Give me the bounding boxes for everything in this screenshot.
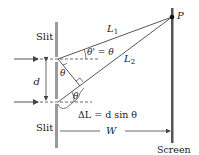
- slit-barrier: [55, 22, 58, 148]
- right-angle-mark: [76, 78, 83, 82]
- L1-label: L1: [106, 23, 118, 36]
- screen-label: Screen: [157, 144, 191, 155]
- theta-lower-label: θ: [73, 91, 79, 101]
- angle-arc-theta-upper: [63, 63, 67, 65]
- screen: [171, 8, 174, 143]
- point-label: P: [176, 10, 184, 21]
- slit-top-label: Slit: [36, 31, 53, 42]
- delta-L-brace: [58, 88, 84, 109]
- L2-label: L2: [123, 53, 135, 66]
- path-difference-label: ΔL = d sin θ: [78, 109, 137, 120]
- angle-arc-theta-prime: [84, 49, 86, 59]
- angle-equality-label: θ' = θ: [87, 47, 114, 57]
- theta-upper-label: θ: [60, 68, 66, 78]
- d-label: d: [34, 76, 40, 87]
- slit-bottom-label: Slit: [36, 122, 53, 133]
- W-label: W: [106, 125, 117, 136]
- double-slit-diagram: Slit Slit Screen P L1 L2 θ' = θ θ θ d ΔL…: [0, 0, 199, 155]
- ray-L1: [58, 17, 172, 59]
- point-P: [170, 15, 175, 20]
